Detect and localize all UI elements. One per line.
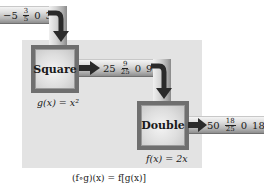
square-machine: Square [31,45,79,93]
arrow-down-icon [149,62,173,102]
middle-value-1: 25 [103,63,116,74]
f-rule: f(x) = 2x [146,153,188,164]
input-value-2-fraction: 3 5 [23,8,29,23]
output-value-1: 50 [207,120,220,131]
output-value-2-fraction: 18 25 [225,118,236,133]
arrow-right-icon [188,118,208,132]
arrow-down-icon [46,9,70,45]
middle-value-2-fraction: 9 25 [121,61,130,76]
square-machine-label: Square [33,63,77,76]
input-value-3: 0 [34,10,40,21]
input-value-1: −5 [3,10,18,21]
output-value-4: 18 [252,120,264,131]
g-rule: g(x) = x² [37,97,79,108]
double-machine-label: Double [141,119,185,132]
composition-formula: (f∘g)(x) = f[g(x)] [72,173,146,183]
output-value-3: 0 [241,120,247,131]
input-values: −5 3 5 0 3 [3,8,52,23]
arrow-right-icon [79,61,101,75]
output-values: 50 18 25 0 18 [207,118,264,133]
middle-values: 25 9 25 0 9 [103,61,152,76]
middle-value-3: 0 [135,63,141,74]
double-machine: Double [137,101,189,150]
